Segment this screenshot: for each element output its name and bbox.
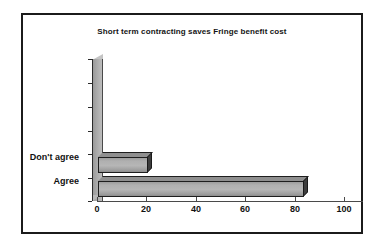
category-axis-tick	[88, 107, 92, 108]
bar-dont-agree[interactable]	[98, 152, 153, 173]
category-axis-tick	[88, 201, 92, 202]
bar-front-face	[98, 157, 148, 173]
bar-agree[interactable]	[98, 176, 309, 197]
value-axis-label-80: 80	[280, 204, 310, 214]
category-axis-tick	[88, 83, 92, 84]
value-axis-tick-20	[146, 197, 147, 202]
value-axis-label-40: 40	[181, 204, 211, 214]
chart-frame: Short term contracting saves Fringe bene…	[21, 13, 363, 234]
value-axis-label-100: 100	[329, 204, 359, 214]
value-axis-tick-0	[97, 197, 98, 202]
category-label-dont-agree: Don't agree	[30, 152, 79, 162]
value-axis-line	[97, 201, 363, 202]
bar-side-face	[303, 176, 308, 197]
value-axis-tick-100	[344, 197, 345, 202]
value-axis-label-60: 60	[230, 204, 260, 214]
category-label-agree: Agree	[53, 176, 79, 186]
value-axis-tick-40	[196, 197, 197, 202]
category-axis-tick	[88, 131, 92, 132]
bar-side-face	[147, 152, 152, 173]
value-axis-label-0: 0	[82, 204, 112, 214]
plot-area: 0 20 40 60 80 100 Don't agree Agree	[23, 15, 361, 232]
value-axis-tick-80	[295, 197, 296, 202]
bar-front-face	[98, 181, 304, 197]
value-axis-tick-60	[245, 197, 246, 202]
category-axis-tick	[88, 178, 92, 179]
category-axis-line	[92, 59, 93, 201]
category-axis-tick	[88, 154, 92, 155]
category-axis-tick	[88, 59, 92, 60]
value-axis-label-20: 20	[131, 204, 161, 214]
